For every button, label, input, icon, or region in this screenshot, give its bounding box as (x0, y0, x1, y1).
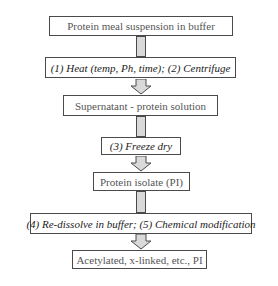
node-protein-isolate: Protein isolate (PI) (93, 172, 190, 191)
node-label: Protein isolate (PI) (100, 176, 183, 188)
node-modified-protein-isolate: Acetylated, x-linked, etc., PI (72, 250, 207, 269)
node-freeze-dry-step: (3) Freeze dry (101, 137, 181, 155)
node-label: (1) Heat (temp, Ph, time); (2) Centrifug… (51, 62, 231, 74)
node-label: (4) Re-dissolve in buffer; (5) Chemical … (26, 218, 255, 230)
node-protein-meal-suspension: Protein meal suspension in buffer (49, 16, 233, 36)
down-arrow-icon (129, 234, 153, 250)
node-label: Protein meal suspension in buffer (67, 20, 215, 32)
node-label: Acetylated, x-linked, etc., PI (76, 254, 202, 266)
connector-bar (136, 36, 146, 57)
node-label: Supernatant - protein solution (75, 100, 206, 112)
down-arrow-icon (129, 79, 153, 95)
node-heat-centrifuge-step: (1) Heat (temp, Ph, time); (2) Centrifug… (45, 57, 236, 78)
connector-bar (136, 116, 146, 137)
node-supernatant-protein-solution: Supernatant - protein solution (63, 95, 218, 116)
node-label: (3) Freeze dry (110, 140, 173, 152)
node-redissolve-chemical-modification-step: (4) Re-dissolve in buffer; (5) Chemical … (30, 213, 252, 234)
connector-bar (136, 191, 146, 213)
down-arrow-icon (129, 156, 153, 172)
